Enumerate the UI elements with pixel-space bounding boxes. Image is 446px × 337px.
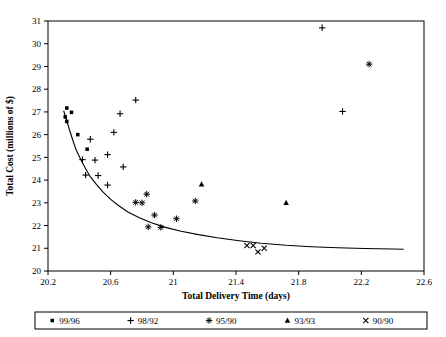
plot-frame xyxy=(48,21,424,271)
y-tick-label: 24 xyxy=(32,175,42,185)
legend-label-93-93: 93/93 xyxy=(294,316,315,326)
chart-canvas: 20212223242526272829303120.220.62121.421… xyxy=(0,0,446,337)
legend-label-98-92: 98/92 xyxy=(138,316,159,326)
x-tick-label: 20.2 xyxy=(40,277,56,287)
x-tick-label: 22.6 xyxy=(416,277,432,287)
data-point-95-90 xyxy=(192,198,198,204)
data-point-99-96 xyxy=(65,120,69,124)
legend-marker-95-90 xyxy=(206,317,212,323)
data-point-98-92 xyxy=(104,151,110,157)
y-tick-label: 26 xyxy=(32,130,42,140)
y-tick-label: 27 xyxy=(32,107,42,117)
x-tick-label: 21.4 xyxy=(228,277,244,287)
x-tick-label: 22.2 xyxy=(353,277,369,287)
data-point-98-92 xyxy=(319,25,325,31)
y-tick-label: 28 xyxy=(32,84,42,94)
y-tick-label: 23 xyxy=(32,198,42,208)
scatter-chart-figure: 20212223242526272829303120.220.62121.421… xyxy=(0,0,446,337)
data-point-99-96 xyxy=(70,111,74,115)
data-point-95-90 xyxy=(173,216,179,222)
data-point-98-92 xyxy=(339,108,345,114)
data-point-98-92 xyxy=(133,97,139,103)
data-point-99-96 xyxy=(85,147,89,151)
data-point-98-92 xyxy=(95,172,101,178)
data-point-99-96 xyxy=(65,106,69,110)
data-point-95-90 xyxy=(158,224,164,230)
data-point-95-90 xyxy=(151,212,157,218)
fit-curve xyxy=(64,111,404,249)
data-point-93-93 xyxy=(199,181,204,186)
data-point-98-92 xyxy=(111,129,117,135)
data-point-95-90 xyxy=(139,200,145,206)
legend-marker-99-96 xyxy=(50,319,54,323)
data-point-95-90 xyxy=(145,224,151,230)
y-tick-label: 21 xyxy=(32,243,41,253)
y-tick-label: 29 xyxy=(32,62,42,72)
data-point-90-90 xyxy=(251,243,256,248)
x-tick-label: 21 xyxy=(169,277,178,287)
legend-label-95-90: 95/90 xyxy=(216,316,237,326)
data-point-99-96 xyxy=(63,115,67,119)
x-axis-title: Total Delivery Time (days) xyxy=(182,291,290,302)
x-tick-label: 21.8 xyxy=(291,277,307,287)
data-point-98-92 xyxy=(120,164,126,170)
y-tick-label: 30 xyxy=(32,39,42,49)
legend-label-99-96: 99/96 xyxy=(59,316,80,326)
data-point-98-92 xyxy=(117,111,123,117)
data-point-95-90 xyxy=(133,199,139,205)
y-tick-label: 20 xyxy=(32,266,42,276)
y-tick-label: 25 xyxy=(32,153,42,163)
data-point-90-90 xyxy=(262,246,267,251)
y-tick-label: 22 xyxy=(32,221,41,231)
data-point-95-90 xyxy=(366,61,372,67)
data-point-98-92 xyxy=(87,136,93,142)
y-tick-label: 31 xyxy=(32,16,41,26)
x-tick-label: 20.6 xyxy=(103,277,119,287)
data-point-90-90 xyxy=(255,249,260,254)
y-axis-title: Total Cost (millions of $) xyxy=(5,96,16,196)
data-point-95-90 xyxy=(144,191,150,197)
data-point-98-92 xyxy=(104,182,110,188)
data-point-98-92 xyxy=(92,157,98,163)
data-point-99-96 xyxy=(76,133,80,137)
data-point-93-93 xyxy=(283,200,288,205)
legend-label-90-90: 90/90 xyxy=(373,316,394,326)
data-point-90-90 xyxy=(244,243,249,248)
